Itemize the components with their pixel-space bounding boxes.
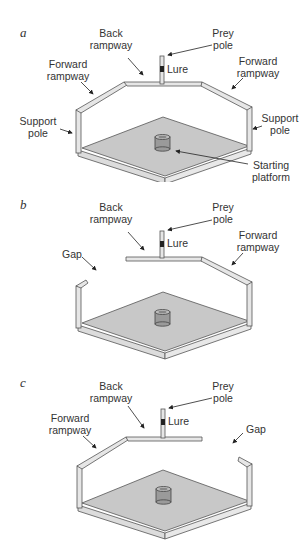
forward-rampway-right — [201, 82, 252, 110]
support-pole-left — [76, 286, 81, 328]
forward-rampway-left — [77, 437, 128, 469]
support-pole-right — [247, 282, 252, 326]
lure-marker — [160, 66, 164, 72]
label-support-pole-left: Supportpole — [16, 115, 60, 139]
panel-letter: b — [20, 197, 27, 213]
starting-platform-cylinder — [156, 487, 171, 505]
label-prey-pole: Preypole — [208, 27, 238, 51]
label-forward-rampway-right: Forwardrampway — [234, 55, 282, 79]
label-back-rampway: Backrampway — [89, 201, 133, 225]
panel-a: a Backrampway Preypole Lure Forwardrampw… — [0, 0, 303, 182]
label-lure: Lure — [168, 415, 189, 427]
apparatus-diagram-b — [0, 180, 303, 360]
panel-letter: c — [20, 375, 26, 391]
label-prey-pole: Preypole — [208, 380, 238, 404]
label-prey-pole: Preypole — [208, 201, 238, 225]
panel-c: c Backrampway Preypole Lure Forwardrampw… — [0, 360, 303, 545]
label-back-rampway: Backrampway — [89, 380, 133, 404]
rampway-stub-right — [238, 457, 252, 467]
support-pole-right — [247, 107, 252, 151]
forward-rampway-right — [201, 257, 252, 285]
starting-platform-cylinder — [155, 135, 170, 152]
label-back-rampway: Backrampway — [89, 27, 133, 51]
label-forward-rampway-left: Forwardrampway — [46, 412, 94, 436]
label-forward-rampway-right: Forwardrampway — [234, 229, 282, 253]
support-pole-right — [247, 464, 252, 506]
label-support-pole-right: Supportpole — [258, 112, 302, 136]
label-lure: Lure — [167, 237, 188, 249]
support-pole-left — [76, 110, 81, 153]
label-gap: Gap — [244, 423, 268, 435]
starting-platform-cylinder — [155, 310, 170, 327]
panel-letter: a — [20, 25, 27, 41]
rampway-stub-left — [76, 280, 88, 288]
label-gap: Gap — [60, 248, 84, 260]
label-lure: Lure — [167, 63, 188, 75]
apparatus-diagram-c — [0, 360, 303, 545]
lure-marker — [161, 419, 165, 425]
apparatus-diagram-a — [0, 0, 303, 182]
forward-rampway-left — [76, 82, 127, 113]
label-forward-rampway-left: Forwardrampway — [44, 58, 92, 82]
support-pole-left — [77, 466, 82, 508]
lure-marker — [160, 241, 164, 247]
panel-b: b Backrampway Preypole Lure Forwardrampw… — [0, 180, 303, 360]
